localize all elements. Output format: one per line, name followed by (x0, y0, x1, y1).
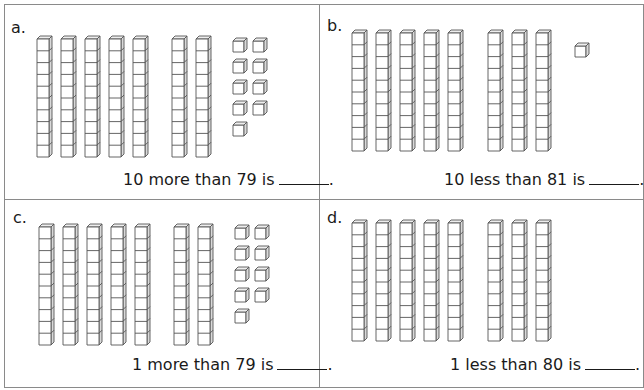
question-prompt: 1 less than 80 is. (450, 355, 640, 374)
period: . (639, 170, 644, 189)
base-ten-rod-icon (448, 220, 463, 341)
base-ten-rod-icon (424, 220, 439, 341)
base-ten-rod-icon (488, 220, 503, 341)
base-ten-rod-icon (352, 220, 367, 341)
base-ten-rod-icon (512, 220, 527, 341)
base-ten-rod-icon (376, 220, 391, 341)
base-ten-rod-icon (536, 220, 551, 341)
period: . (635, 355, 640, 374)
prompt-text: 1 less than 80 is (450, 355, 581, 374)
answer-blank[interactable] (585, 355, 635, 370)
base-ten-rod-icon (400, 220, 415, 341)
